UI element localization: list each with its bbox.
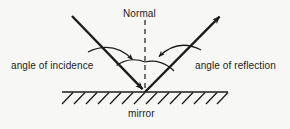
angle-of-reflection-label: angle of reflection xyxy=(195,60,276,71)
normal-label: Normal xyxy=(123,8,156,19)
mirror-hatching xyxy=(62,93,228,105)
reflected-ray xyxy=(145,17,220,92)
angle-of-incidence-arc xyxy=(117,60,146,66)
angle-of-incidence-label: angle of incidence xyxy=(11,60,93,71)
reflection-diagram: Normal angle of incidence angle of refle… xyxy=(0,0,290,129)
angle-of-incidence-pointer xyxy=(88,47,133,59)
mirror-label: mirror xyxy=(128,108,155,119)
incident-ray xyxy=(72,16,143,89)
angle-of-reflection-pointer xyxy=(159,45,201,56)
